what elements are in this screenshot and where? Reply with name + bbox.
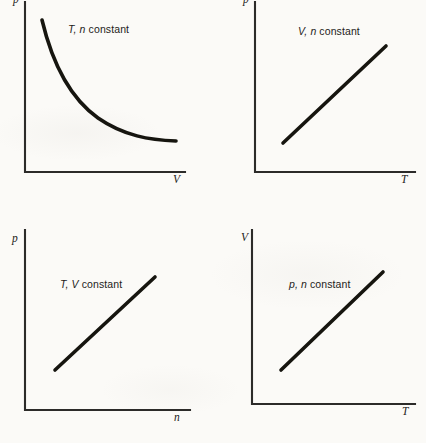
plot-area-bottom-left — [0, 222, 213, 443]
plot-area-bottom-right — [213, 222, 426, 443]
annotation-word-constant: constant — [89, 23, 130, 35]
axes-bottom-right — [252, 230, 415, 404]
panel-pressure-vs-temperature: p T V, n constant — [213, 0, 426, 200]
annotation-bottom-right: p, n constant — [289, 279, 350, 290]
y-axis-label-p: p — [12, 233, 18, 245]
annotation-var-p: p, — [289, 278, 298, 290]
panel-pressure-vs-volume: p V T, n constant — [0, 0, 213, 200]
annotation-var-n: n — [310, 25, 316, 37]
y-axis-label-p: p — [13, 0, 19, 6]
x-axis-label-t: T — [402, 406, 408, 418]
y-axis-label-p: p — [243, 0, 249, 6]
curve-inverse-pv — [42, 20, 176, 141]
annotation-var-v: V, — [298, 25, 307, 37]
annotation-var-n: n — [80, 23, 86, 35]
annotation-word-constant: constant — [310, 278, 351, 290]
annotation-var-n: n — [301, 278, 307, 290]
panel-volume-vs-temperature: V T p, n constant — [213, 222, 426, 443]
panel-pressure-vs-moles: p n T, V constant — [0, 222, 213, 443]
ideal-gas-law-figure: p V T, n constant p T V, n constant p n … — [0, 0, 426, 443]
annotation-var-t: T, — [68, 23, 77, 35]
y-axis-label-v: V — [241, 232, 248, 244]
line-linear-pt — [283, 46, 386, 143]
annotation-var-t: T, — [60, 278, 69, 290]
annotation-word-constant: constant — [82, 278, 123, 290]
annotation-var-v: V — [72, 278, 79, 290]
x-axis-label-n: n — [174, 412, 180, 424]
x-axis-label-v: V — [173, 174, 180, 186]
line-linear-pn — [55, 277, 155, 370]
annotation-top-right: V, n constant — [298, 26, 360, 37]
annotation-word-constant: constant — [319, 25, 360, 37]
annotation-bottom-left: T, V constant — [60, 279, 122, 290]
x-axis-label-t: T — [401, 174, 407, 186]
annotation-top-left: T, n constant — [68, 24, 129, 35]
